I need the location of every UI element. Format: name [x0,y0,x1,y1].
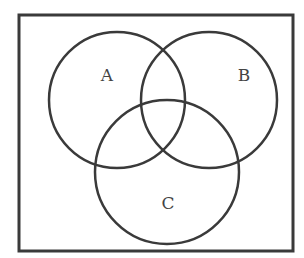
universe-rectangle [19,15,293,251]
set-a-label: A [100,65,114,85]
set-b-label: B [238,65,251,85]
set-c-circle [95,100,239,244]
set-c-label: C [161,193,174,213]
venn-diagram: A B C [0,0,304,258]
